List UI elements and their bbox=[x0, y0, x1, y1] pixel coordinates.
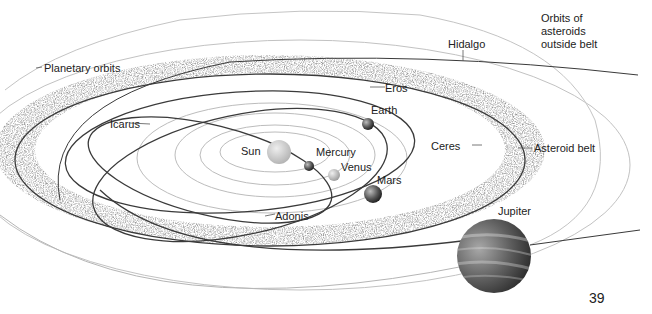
label-jupiter: Jupiter bbox=[498, 205, 531, 217]
earth bbox=[362, 118, 374, 130]
page-number: 39 bbox=[589, 290, 605, 306]
label-mercury: Mercury bbox=[316, 146, 356, 158]
label-icarus: Icarus bbox=[110, 118, 140, 130]
label-sun: Sun bbox=[241, 145, 261, 157]
label-earth: Earth bbox=[371, 104, 397, 116]
label-venus: Venus bbox=[341, 161, 372, 173]
label-adonis: Adonis bbox=[275, 210, 309, 222]
label-eros: Eros bbox=[385, 82, 408, 94]
solar-system-diagram: Planetary orbits Hidalgo Orbits of aster… bbox=[0, 0, 652, 314]
venus bbox=[328, 169, 340, 181]
label-hidalgo: Hidalgo bbox=[448, 38, 485, 50]
label-orbits-outside-belt: Orbits of asteroids outside belt bbox=[541, 12, 597, 51]
label-planetary-orbits: Planetary orbits bbox=[44, 62, 120, 74]
sun bbox=[267, 140, 291, 164]
mars bbox=[364, 185, 382, 203]
label-asteroid-belt: Asteroid belt bbox=[534, 142, 595, 154]
label-ceres: Ceres bbox=[431, 140, 460, 152]
mercury bbox=[304, 161, 314, 171]
label-mars: Mars bbox=[377, 174, 401, 186]
